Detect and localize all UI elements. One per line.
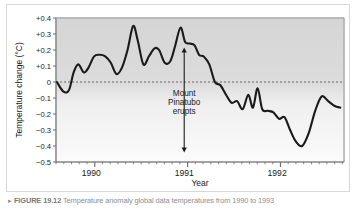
plot-area-shading (57, 19, 344, 162)
annotation-line-3: erupts (173, 107, 196, 116)
y-tick-label: 0 (47, 78, 51, 87)
caption-marker-icon: ▸ (8, 196, 12, 205)
y-tick-label: +0.3 (36, 30, 51, 39)
figure-container: +0.4+0.3+0.2+0.10−0.1−0.2−0.3−0.4−0.5 19… (0, 0, 357, 214)
caption-body: Temperature anomaly global data temperat… (63, 196, 274, 205)
y-tick-label: +0.1 (36, 62, 51, 71)
y-tick-label: +0.2 (36, 46, 51, 55)
y-axis-ticks: +0.4+0.3+0.2+0.10−0.1−0.2−0.3−0.4−0.5 (36, 14, 56, 167)
caption-label: FIGURE 19.12 (14, 196, 61, 205)
x-tick-label: 1992 (268, 168, 287, 178)
x-tick-label: 1990 (82, 168, 101, 178)
y-tick-label: −0.2 (36, 110, 51, 119)
y-tick-label: −0.1 (36, 94, 51, 103)
annotation-line-2: Pinatubo (168, 98, 201, 107)
figure-caption: ▸ FIGURE 19.12 Temperature anomaly globa… (8, 196, 353, 205)
y-tick-label: −0.5 (36, 158, 51, 167)
temperature-anomaly-chart: +0.4+0.3+0.2+0.10−0.1−0.2−0.3−0.4−0.5 19… (0, 0, 357, 214)
x-axis-ticks: 199019911992 (56, 162, 342, 178)
x-tick-label: 1991 (175, 168, 194, 178)
y-tick-label: −0.3 (36, 126, 51, 135)
y-tick-label: −0.4 (36, 142, 51, 151)
x-axis-title: Year (191, 178, 208, 188)
y-axis-title: Temperature change (°C) (14, 42, 24, 138)
annotation-line-1: Mount (173, 89, 196, 98)
y-tick-label: +0.4 (36, 14, 51, 23)
